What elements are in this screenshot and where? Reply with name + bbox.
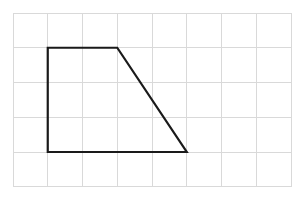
grid-figure-svg [0, 0, 303, 206]
figure-canvas [0, 0, 303, 206]
